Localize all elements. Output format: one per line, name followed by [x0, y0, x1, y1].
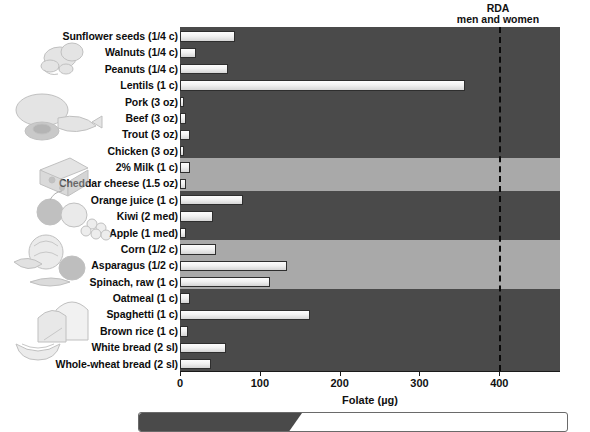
- value-bar: [180, 228, 186, 238]
- cheese-and-milk-illustration: [40, 158, 88, 196]
- value-bar: [180, 195, 243, 205]
- x-tick-label: 200: [320, 377, 360, 389]
- x-tick: [260, 371, 261, 376]
- vegetables-illustration: [14, 235, 85, 286]
- x-tick-label: 0: [160, 377, 200, 389]
- x-axis-line: [180, 371, 560, 372]
- value-bar: [180, 162, 190, 172]
- food-illustrations: [0, 0, 180, 400]
- x-tick: [499, 371, 500, 376]
- meat-fish-poultry-illustration: [16, 94, 102, 140]
- value-bar: [180, 244, 216, 254]
- value-bar: [180, 31, 235, 41]
- bottom-banner-tab: [139, 413, 289, 432]
- value-bar: [180, 310, 310, 320]
- value-bar: [180, 97, 184, 107]
- value-bar: [180, 211, 213, 221]
- x-tick-label: 100: [240, 377, 280, 389]
- bottom-banner: [138, 412, 568, 432]
- value-bar: [180, 64, 228, 74]
- x-tick-label: 300: [399, 377, 439, 389]
- x-tick: [340, 371, 341, 376]
- value-bar: [180, 146, 184, 156]
- value-bar: [180, 261, 287, 271]
- value-bar: [180, 48, 196, 58]
- value-bar: [180, 113, 186, 123]
- bread-and-cereal-illustration: [16, 302, 88, 360]
- value-bar: [180, 293, 190, 303]
- x-tick: [180, 371, 181, 376]
- value-bar: [180, 359, 211, 369]
- value-bar: [180, 343, 226, 353]
- rda-label-line2: men and women: [428, 13, 568, 25]
- fruit-illustration: [37, 191, 111, 240]
- x-tick-label: 400: [479, 377, 519, 389]
- nuts-and-seeds-illustration: [41, 43, 83, 75]
- value-bar: [180, 326, 188, 336]
- value-bar: [180, 80, 465, 90]
- value-bar: [180, 179, 186, 189]
- value-bar: [180, 130, 190, 140]
- x-tick: [419, 371, 420, 376]
- x-axis-title: Folate (µg): [180, 394, 560, 406]
- value-bar: [180, 277, 270, 287]
